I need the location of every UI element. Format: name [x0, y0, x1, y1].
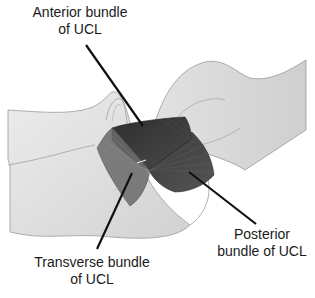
posterior-bundle-label: Posterior bundle of UCL [212, 226, 312, 260]
anterior-label-line1: Anterior bundle [20, 4, 140, 21]
anterior-bundle-label: Anterior bundle of UCL [20, 4, 140, 38]
transverse-label-line2: of UCL [22, 271, 162, 288]
posterior-label-line2: bundle of UCL [212, 243, 312, 260]
ucl-anatomy-diagram: Anterior bundle of UCL Transverse bundle… [0, 0, 315, 298]
posterior-label-line1: Posterior [212, 226, 312, 243]
anterior-label-line2: of UCL [20, 21, 140, 38]
transverse-label-line1: Transverse bundle [22, 254, 162, 271]
transverse-bundle-label: Transverse bundle of UCL [22, 254, 162, 288]
